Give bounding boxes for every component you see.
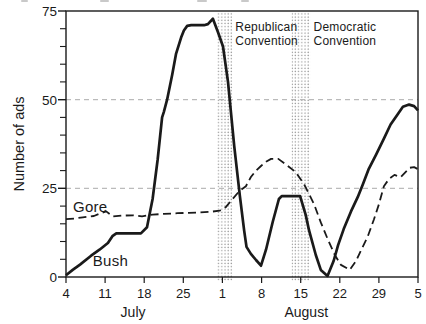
- y-tick-label-25: 25: [42, 181, 57, 196]
- series-label-gore: Gore: [73, 198, 108, 215]
- y-tick-label-75: 75: [42, 4, 57, 19]
- x-tick-label-4: 1: [219, 286, 226, 301]
- band-label-democratic: Democratic Convention: [314, 21, 377, 48]
- x-tick-label-1: 11: [98, 286, 112, 301]
- y-tick-label-0: 0: [49, 270, 57, 285]
- month-label-july: July: [121, 304, 146, 320]
- x-tick-label-3: 25: [176, 286, 190, 301]
- month-label-august: August: [284, 304, 328, 320]
- y-tick-label-50: 50: [42, 92, 57, 107]
- x-tick-label-0: 4: [62, 286, 69, 301]
- x-tick-label-8: 29: [372, 286, 386, 301]
- chart-labels-layer: 02550754111825181522295JulyAugustBushGor…: [0, 0, 426, 324]
- x-tick-label-7: 22: [333, 286, 347, 301]
- series-label-bush: Bush: [93, 252, 128, 269]
- x-tick-label-9: 5: [414, 286, 421, 301]
- campaign-ads-chart-figure: Number of ads 02550754111825181522295Jul…: [0, 0, 426, 324]
- band-label-republican: Republican Convention: [235, 21, 298, 48]
- x-tick-label-5: 8: [258, 286, 265, 301]
- x-tick-label-6: 15: [293, 286, 307, 301]
- x-tick-label-2: 18: [137, 286, 151, 301]
